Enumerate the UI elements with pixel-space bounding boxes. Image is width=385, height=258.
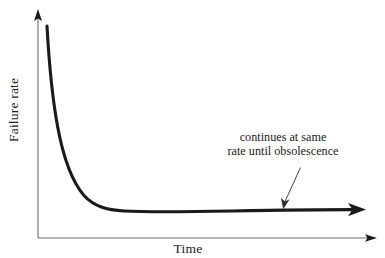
annotation-leader [281,168,301,210]
curve-path [47,26,352,212]
annotation-line-2: rate until obsolescence [193,144,373,158]
x-axis-label: Time [153,241,223,257]
failure-rate-curve [47,26,366,216]
chart-canvas [0,0,385,258]
failure-rate-chart: Failure rate Time continues at same rate… [0,0,385,258]
y-axis [34,9,42,238]
leader-line [285,168,301,202]
annotation-text: continues at same rate until obsolescenc… [193,130,373,159]
y-axis-label: Failure rate [6,98,22,142]
annotation-line-1: continues at same [193,130,373,144]
leader-arrowhead-icon [281,198,290,209]
